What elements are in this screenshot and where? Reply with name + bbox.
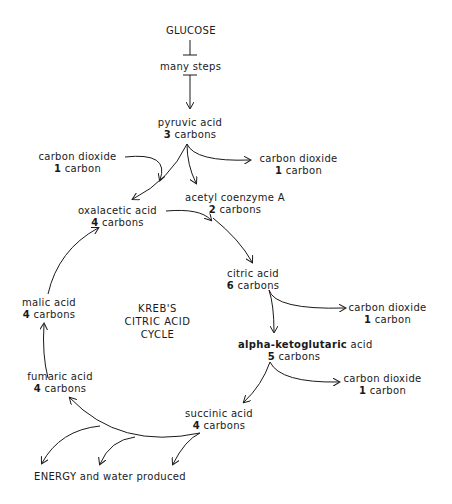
node-carbon-dioxide-output-2: carbon dioxide 1 carbon <box>345 302 430 326</box>
citric-to-co2-arrow <box>269 290 345 308</box>
alpha-to-succinic-arrow <box>244 362 270 402</box>
node-energy-and-water: ENERGY and water produced <box>25 471 195 483</box>
node-carbon-dioxide-output-3: carbon dioxide 1 carbon <box>340 373 425 397</box>
node-citric-acid: citric acid 6 carbons <box>222 268 284 292</box>
node-many-steps: many steps <box>160 61 220 73</box>
node-fumaric-acid: fumaric acid 4 carbons <box>25 371 95 395</box>
node-acetyl-coenzyme-a: acetyl coenzyme A 2 carbons <box>185 192 285 216</box>
fumaric-to-malic-arrow <box>44 324 49 378</box>
pyruvic-to-co2-arrow <box>187 144 250 160</box>
node-oxalacetic-acid: oxalacetic acid 4 carbons <box>75 205 160 229</box>
co2-in-arrow <box>125 156 162 180</box>
succinic-to-fumaric-arrow <box>70 398 200 437</box>
alpha-to-co2-arrow <box>270 362 339 382</box>
cycle-title: KREB'S CITRIC ACID CYCLE <box>120 302 195 341</box>
node-alpha-ketoglutaric-acid: alpha-ketoglutaric acid 5 carbons <box>238 339 350 363</box>
node-carbon-dioxide-output-1: carbon dioxide 1 carbon <box>256 153 341 177</box>
acetyl-to-citric-arrow <box>213 218 252 262</box>
energy-arrow-1 <box>42 426 100 463</box>
energy-arrow-2 <box>100 437 135 464</box>
malic-to-oxalacetic-arrow <box>48 228 98 294</box>
node-succinic-acid: succinic acid 4 carbons <box>183 408 255 432</box>
node-pyruvic-acid: pyruvic acid 3 carbons <box>155 117 225 141</box>
energy-arrow-3 <box>173 433 200 464</box>
pyruvic-to-oxalacetic-arrow <box>133 144 187 199</box>
node-malic-acid: malic acid 4 carbons <box>18 297 80 321</box>
node-carbon-dioxide-input: carbon dioxide 1 carbon <box>35 151 120 175</box>
node-glucose: GLUCOSE <box>166 25 214 37</box>
